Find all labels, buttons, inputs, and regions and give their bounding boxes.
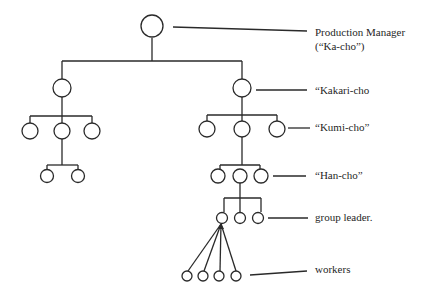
node-kakari-cho-left (53, 61, 71, 116)
label-kakari-cho: “Kakari-cho (315, 84, 370, 96)
org-chart: Production Manager (“Ka-cho”) “Kakari-ch… (0, 0, 425, 298)
node-kakari-cho-right (233, 61, 251, 115)
label-ka-cho: (“Ka-cho”) (315, 40, 365, 53)
right-han-cho-nodes (211, 165, 268, 198)
workers-leader-line (250, 271, 307, 275)
worker-links (188, 223, 236, 271)
label-han-cho: “Han-cho” (315, 169, 363, 181)
group-leader-nodes (217, 198, 264, 224)
label-workers: workers (315, 263, 350, 275)
label-production-manager: Production Manager (315, 26, 405, 38)
left-kumi-cho-nodes (22, 116, 100, 165)
pm-leader-line (173, 27, 307, 31)
label-kumi-cho: “Kumi-cho” (315, 121, 369, 133)
left-han-cho-nodes (41, 165, 85, 183)
node-production-manager (141, 15, 163, 61)
right-kumi-cho-nodes (199, 115, 285, 165)
worker-nodes (182, 271, 241, 281)
label-group-leader: group leader. (315, 211, 373, 223)
